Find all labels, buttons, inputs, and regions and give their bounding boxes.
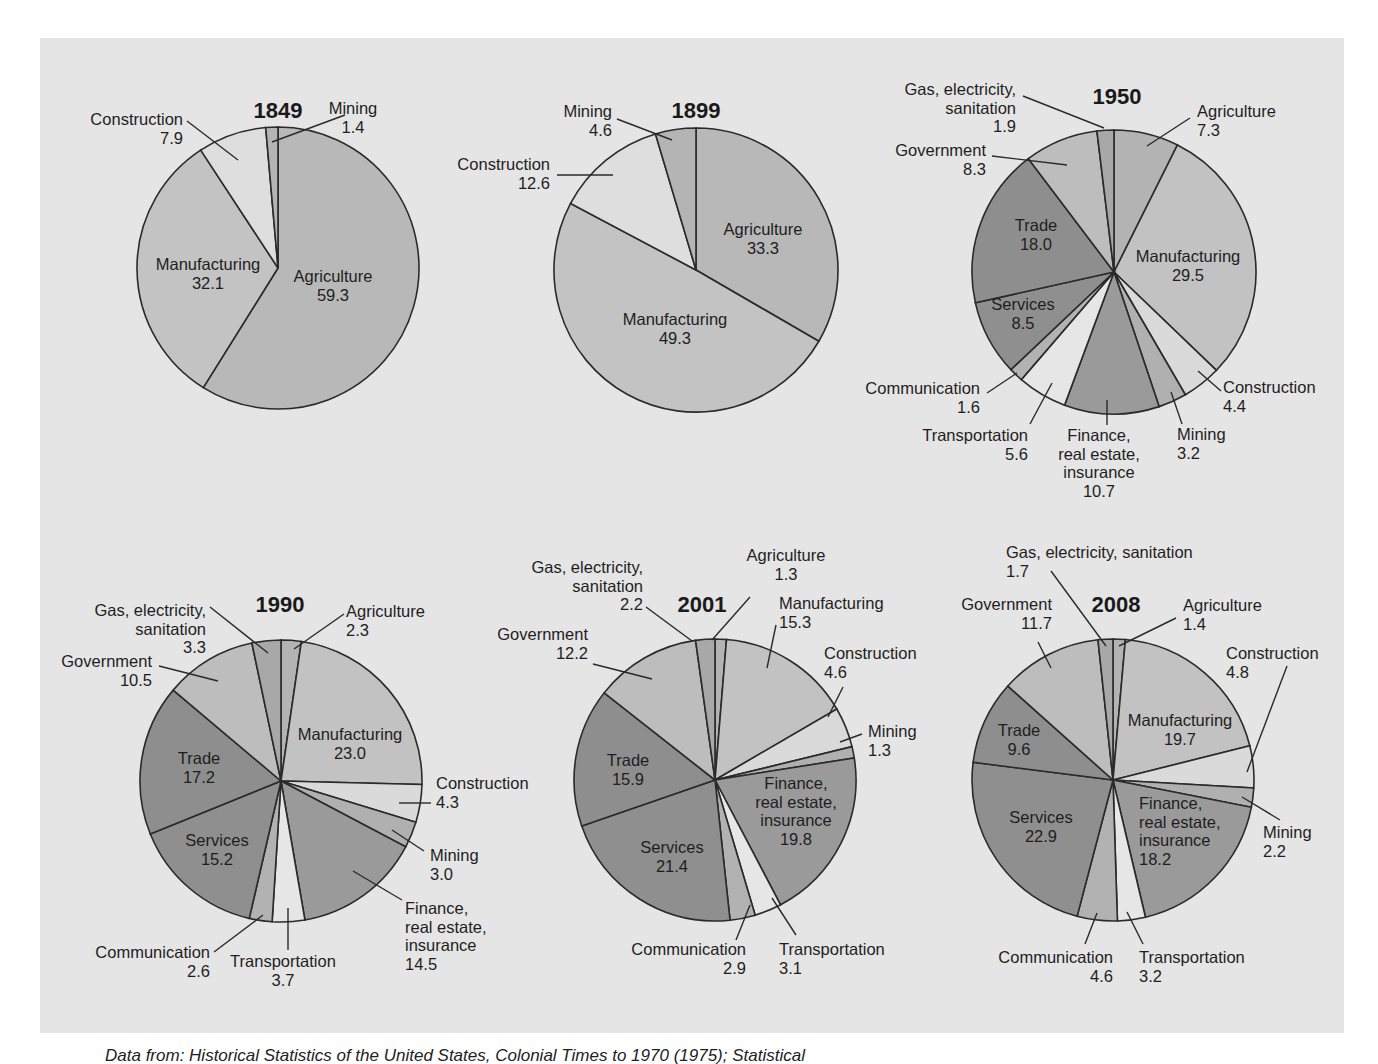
slice-label: Transportation3.7 <box>230 952 336 989</box>
slice-label: Government10.5 <box>61 652 152 689</box>
pie-charts: Agriculture59.3Manufacturing32.1Construc… <box>0 0 1378 1064</box>
slice-label: Gas, electricity,sanitation1.9 <box>904 80 1016 135</box>
slice-label: Communication1.6 <box>865 379 980 416</box>
slice-label: Construction4.6 <box>824 644 917 681</box>
slice-label: Communication2.6 <box>95 943 210 980</box>
slice-label: Agriculture7.3 <box>1197 102 1276 139</box>
pie-chart-1849: Agriculture59.3Manufacturing32.1Construc… <box>90 98 419 409</box>
pie-chart-2001: Agriculture1.3Manufacturing15.3Construct… <box>497 546 916 977</box>
slice-label: Government12.2 <box>497 625 588 662</box>
slice-label: Mining2.2 <box>1263 823 1312 860</box>
slice-label: Mining1.4 <box>329 99 378 136</box>
slice-label: Mining3.2 <box>1177 425 1226 462</box>
slice-label: Communication4.6 <box>998 948 1113 985</box>
slice-label: Transportation5.6 <box>922 426 1028 463</box>
slice-label: Government11.7 <box>961 595 1052 632</box>
slice-label: Trade17.2 <box>178 749 221 786</box>
source-caption: Data from: Historical Statistics of the … <box>105 1046 805 1064</box>
slice-label: Construction4.4 <box>1223 378 1316 415</box>
leader-line <box>294 614 344 649</box>
pie-title: 1899 <box>672 98 721 123</box>
slice-label: Communication2.9 <box>631 940 746 977</box>
pie-chart-1899: Agriculture33.3Manufacturing49.3Construc… <box>457 98 838 412</box>
leader-line <box>1247 666 1287 772</box>
slice-label: Construction12.6 <box>457 155 550 192</box>
slice-label: Mining1.3 <box>868 722 917 759</box>
pie-title: 1849 <box>254 98 303 123</box>
slice-label: Finance,real estate,insurance10.7 <box>1058 426 1140 500</box>
pie-title: 2008 <box>1092 592 1141 617</box>
slice-label: Agriculture1.4 <box>1183 596 1262 633</box>
pie-chart-2008: Agriculture1.4Manufacturing19.7Construct… <box>961 543 1318 985</box>
pie-chart-1950: Agriculture7.3Manufacturing29.5Construct… <box>865 80 1315 500</box>
slice-label: Government8.3 <box>895 141 986 178</box>
slice-label: Manufacturing15.3 <box>779 594 884 631</box>
slice-label: Gas, electricity,sanitation3.3 <box>94 601 206 656</box>
slice-label: Agriculture2.3 <box>346 602 425 639</box>
slice-label: Construction7.9 <box>90 110 183 147</box>
pie-title: 1990 <box>256 592 305 617</box>
slice-label: Mining3.0 <box>430 846 479 883</box>
pie-title: 2001 <box>678 592 727 617</box>
leader-line <box>214 915 263 952</box>
slice-label: Construction4.3 <box>436 774 529 811</box>
slice-label: Transportation3.2 <box>1139 948 1245 985</box>
slice-label: Transportation3.1 <box>779 940 885 977</box>
leader-line <box>987 373 1017 393</box>
slice-label: Agriculture1.3 <box>747 546 826 583</box>
pie-slice-manufacturing <box>281 641 422 784</box>
pie-title: 1950 <box>1093 84 1142 109</box>
slice-label: Trade18.0 <box>1015 216 1058 253</box>
slice-label: Trade15.9 <box>607 751 650 788</box>
leader-line <box>1119 618 1176 646</box>
slice-label: Gas, electricity, sanitation1.7 <box>1006 543 1193 580</box>
slice-label: Gas, electricity,sanitation2.2 <box>531 558 643 613</box>
pie-chart-1990: Agriculture2.3Manufacturing23.0Construct… <box>61 592 528 989</box>
slice-label: Construction4.8 <box>1226 644 1319 681</box>
slice-label: Mining4.6 <box>563 102 612 139</box>
slice-label: Finance,real estate,insurance14.5 <box>405 899 487 973</box>
